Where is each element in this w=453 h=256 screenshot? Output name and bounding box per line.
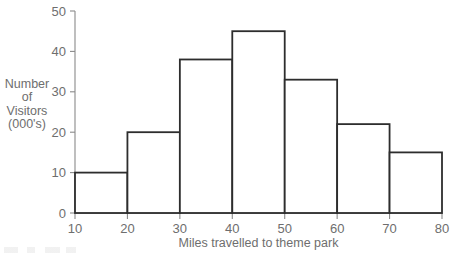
x-tick-label: 50 (277, 221, 291, 236)
y-tick-label: 30 (52, 84, 66, 99)
y-tick-label: 20 (52, 125, 66, 140)
histogram-bar (337, 124, 389, 213)
x-tick-label: 10 (68, 221, 82, 236)
x-tick-label: 80 (435, 221, 449, 236)
y-tick-label: 0 (59, 206, 66, 221)
y-axis-title-line: Number (5, 77, 49, 91)
histogram-bar (390, 152, 442, 213)
x-tick-label: 60 (330, 221, 344, 236)
histogram-chart: 010203040501020304050607080Miles travell… (0, 0, 453, 256)
y-axis-title-line: (000's) (8, 117, 46, 131)
histogram-bar (180, 59, 232, 213)
y-axis-title-line: of (22, 90, 33, 104)
x-tick-label: 20 (120, 221, 134, 236)
x-tick-label: 30 (173, 221, 187, 236)
x-tick-label: 40 (225, 221, 239, 236)
page-edge-artifact (4, 247, 82, 253)
x-tick-label: 70 (382, 221, 396, 236)
chart-canvas: 010203040501020304050607080Miles travell… (0, 0, 453, 256)
histogram-bar (127, 132, 179, 213)
histogram-bar (285, 80, 337, 213)
y-tick-label: 40 (52, 44, 66, 59)
y-tick-label: 50 (52, 4, 66, 19)
histogram-bar (232, 31, 284, 213)
y-axis-title-line: Visitors (7, 104, 48, 118)
x-axis-title: Miles travelled to theme park (179, 236, 340, 250)
histogram-bar (75, 173, 127, 213)
y-tick-label: 10 (52, 165, 66, 180)
